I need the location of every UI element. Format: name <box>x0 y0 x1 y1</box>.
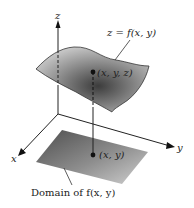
function-of-two-variables-diagram: z x y z = f(x, y) (x, y, z) (x, y) Domai… <box>0 0 194 208</box>
z-axis-label: z <box>54 10 61 21</box>
surface-label: z = f(x, y) <box>106 27 156 38</box>
y-axis-arrow-icon <box>166 142 175 149</box>
point-2d-label: (x, y) <box>99 149 125 160</box>
domain-label: Domain of f(x, y) <box>31 187 115 198</box>
surface-leader-line <box>115 40 130 60</box>
y-axis-label: y <box>176 142 183 153</box>
z-axis-arrow-icon <box>56 20 61 28</box>
point-3d-label: (x, y, z) <box>97 67 133 78</box>
point-3d-icon <box>91 70 96 75</box>
z-axis <box>56 20 61 52</box>
x-axis-label: x <box>11 153 17 164</box>
point-2d-icon <box>91 153 96 158</box>
